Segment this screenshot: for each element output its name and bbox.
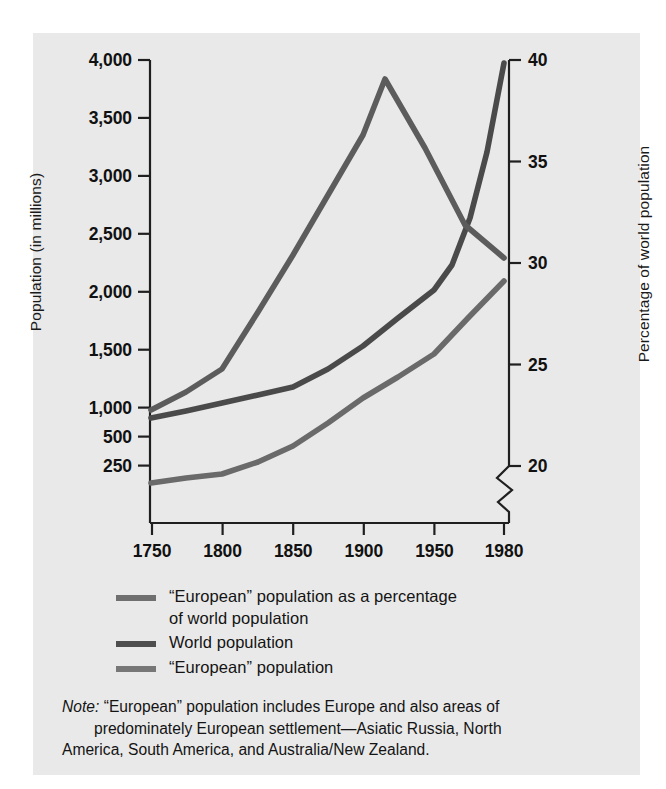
legend-item-european-percentage[interactable]: “European” population as a percentage of… — [116, 586, 636, 629]
xtick-label-1980: 1980 — [485, 541, 524, 562]
y2tick-label-40: 40 — [528, 50, 547, 71]
right-axis-line — [497, 60, 512, 523]
legend-item-european-population[interactable]: “European” population — [116, 657, 636, 679]
xtick-label-1900: 1900 — [345, 541, 384, 562]
y2tick-label-30: 30 — [528, 253, 547, 274]
y-axis-title-left: Population (in millions) — [27, 112, 45, 392]
legend-label-european-population: “European” population — [169, 657, 333, 679]
legend-swatch-world-population — [116, 641, 156, 647]
y2tick-label-25: 25 — [528, 354, 547, 375]
ytick-label-3000: 3,000 — [60, 165, 132, 186]
note-label: Note: — [62, 698, 99, 715]
legend-label-line1: “European” population as a percentage — [169, 587, 457, 605]
left-axis-ticks — [138, 60, 150, 466]
legend-label-line2: of world population — [169, 609, 308, 627]
right-axis-ticks — [509, 60, 521, 466]
y-axis-title-right: Percentage of world population — [635, 114, 653, 394]
legend-label-world-population: World population — [169, 632, 293, 654]
ytick-label-1000: 1,000 — [60, 397, 132, 418]
y2tick-label-20: 20 — [528, 456, 547, 477]
legend-label-european-percentage: “European” population as a percentage of… — [169, 586, 457, 629]
xtick-label-1800: 1800 — [203, 541, 242, 562]
line-world-population — [151, 63, 504, 418]
ytick-label-1500: 1,500 — [60, 339, 132, 360]
legend-item-world-population[interactable]: World population — [116, 632, 636, 654]
bottom-axis-ticks — [152, 523, 504, 535]
y2tick-label-35: 35 — [528, 151, 547, 172]
xtick-label-1950: 1950 — [415, 541, 454, 562]
note-line-3: America, South America, and Australia/Ne… — [62, 739, 618, 761]
ytick-label-2500: 2,500 — [60, 223, 132, 244]
ytick-label-3500: 3,500 — [60, 107, 132, 128]
legend-swatch-european-population — [116, 666, 156, 672]
note-line-1: “European” population includes Europe an… — [104, 698, 500, 715]
ytick-label-500: 500 — [60, 426, 132, 447]
figure-container: 4,000 3,500 3,000 2,500 2,000 1,500 1,00… — [0, 0, 666, 789]
line-european-percentage — [151, 79, 504, 410]
chart-note: Note: “European” population includes Eur… — [62, 696, 618, 761]
legend-swatch-european-percentage — [116, 595, 156, 601]
ytick-label-4000: 4,000 — [60, 50, 132, 71]
xtick-label-1850: 1850 — [274, 541, 313, 562]
ytick-label-2000: 2,000 — [60, 281, 132, 302]
xtick-label-1750: 1750 — [133, 541, 172, 562]
chart-legend: “European” population as a percentage of… — [116, 586, 636, 681]
note-line-2: predominately European settlement—Asiati… — [62, 718, 618, 740]
ytick-label-250: 250 — [60, 455, 132, 476]
